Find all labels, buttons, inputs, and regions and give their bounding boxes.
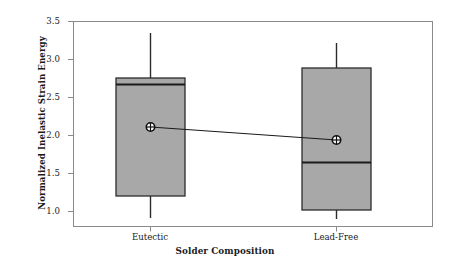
x-tick-label-eutectic: Eutectic — [90, 232, 210, 242]
y-axis-ticks — [68, 22, 73, 212]
x-axis-ticks — [151, 227, 337, 232]
x-tick-label-lead-free: Lead-Free — [276, 232, 396, 242]
box-eutectic — [116, 78, 185, 196]
mean-marker-lead-free — [332, 136, 340, 144]
x-axis-title: Solder Composition — [0, 246, 450, 256]
boxplot-lead-free — [302, 43, 371, 219]
boxplot-figure: Normalized Inelastic Strain Energy 3.5 3… — [0, 0, 450, 279]
mean-marker-eutectic — [146, 123, 154, 131]
